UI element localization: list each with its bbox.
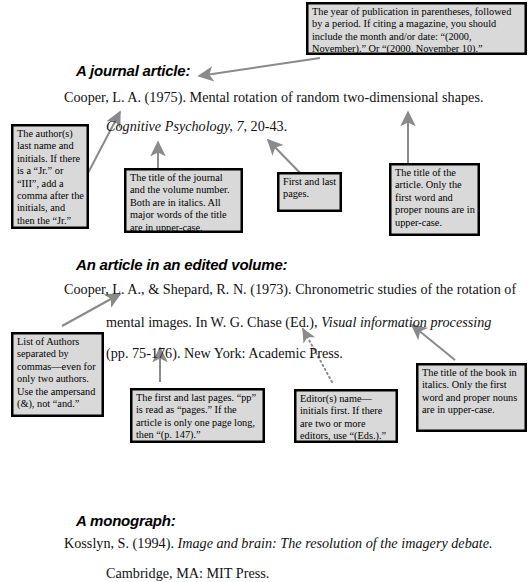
callout-book-title: The title of the book in italics. Only t…: [416, 363, 527, 432]
callout-article-title: The title of the article. Only the first…: [389, 163, 480, 236]
citation-journal-line-1: Cooper, L. A. (1975). Mental rotation of…: [64, 89, 483, 106]
monograph-title-italic: Image and brain: The resolution of the i…: [178, 535, 493, 551]
section-heading-edited-volume: An article in an edited volume:: [76, 256, 287, 273]
journal-pages: , 20-43.: [244, 118, 288, 134]
edited-in-editor: mental images. In W. G. Chase (Ed.),: [106, 314, 321, 330]
citation-monograph-line-1: Kosslyn, S. (1994). Image and brain: The…: [64, 535, 493, 552]
callout-first-and-last-pages: First and last pages.: [277, 172, 342, 212]
arrow-year-to-heading: [199, 58, 320, 76]
callout-editors-name: Editor(s) name—initials first. If there …: [294, 389, 398, 443]
arrow-pages-to-range: [268, 140, 303, 176]
journal-name-italic: Cognitive Psychology, 7: [106, 118, 244, 134]
section-heading-journal-article: A journal article:: [76, 62, 190, 79]
book-title-italic: Visual information processing: [321, 314, 491, 330]
callout-journal-title: The title of the journal and the volume …: [124, 168, 243, 233]
monograph-author: Kosslyn, S. (1994).: [64, 535, 178, 551]
citation-edited-line-2: mental images. In W. G. Chase (Ed.), Vis…: [106, 314, 491, 331]
callout-author-last-name: The author(s) last name and initials. If…: [11, 124, 89, 229]
section-heading-monograph: A monograph:: [76, 512, 176, 529]
citation-edited-line-3: (pp. 75-176). New York: Academic Press.: [106, 345, 343, 362]
callout-list-of-authors: List of Authors separated by commas—even…: [11, 332, 104, 417]
callout-first-and-last-pages-detail: The first and last pages. “pp” is read a…: [130, 388, 265, 443]
citation-monograph-line-2: Cambridge, MA: MIT Press.: [106, 565, 269, 582]
citation-journal-line-2: Cognitive Psychology, 7, 20-43.: [106, 118, 287, 135]
callout-year-of-publication: The year of publication in parentheses, …: [306, 2, 527, 55]
citation-edited-line-1: Cooper, L. A., & Shepard, R. N. (1973). …: [64, 281, 516, 298]
